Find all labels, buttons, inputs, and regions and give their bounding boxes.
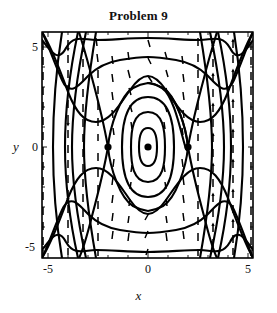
plot-canvas	[0, 0, 277, 313]
center-origin-marker	[144, 143, 151, 150]
saddle-right-marker	[184, 143, 191, 150]
phase-portrait-figure: Problem 9 y x 5 0 -5 -5 0 5	[0, 0, 277, 313]
saddle-left-marker	[104, 143, 111, 150]
